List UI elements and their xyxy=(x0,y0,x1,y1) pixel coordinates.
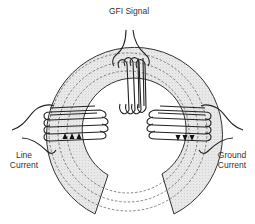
line-current-label-line2: Current xyxy=(6,160,42,170)
line-current-label-line1: Line xyxy=(6,150,42,160)
line-current-arrows xyxy=(63,133,82,139)
gfi-signal-label: GFI Signal xyxy=(104,6,154,16)
ground-current-arrows xyxy=(176,135,195,141)
toroidal-core xyxy=(47,47,223,214)
ground-current-label: Ground Current xyxy=(210,150,254,170)
ground-current-label-line2: Current xyxy=(210,160,254,170)
gfi-toroid-diagram xyxy=(0,0,255,224)
line-current-label: Line Current xyxy=(6,150,42,170)
ground-current-label-line1: Ground xyxy=(210,150,254,160)
